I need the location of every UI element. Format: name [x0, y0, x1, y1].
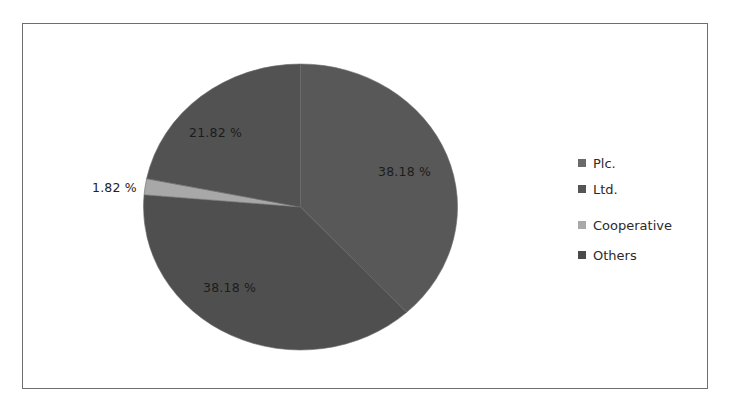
legend-item-others: Others	[578, 246, 637, 264]
slice-label-others: 21.82 %	[189, 125, 242, 140]
legend-label-ltd: Ltd.	[593, 182, 618, 197]
legend-swatch-cooperative	[578, 221, 586, 229]
slice-label-ltd: 38.18 %	[203, 280, 256, 295]
pie-slices	[143, 64, 457, 350]
legend-swatch-plc	[578, 159, 586, 167]
slice-label-cooperative: 1.82 %	[92, 180, 137, 195]
legend-swatch-others	[578, 251, 586, 259]
legend-item-cooperative: Cooperative	[578, 216, 672, 234]
pie-chart	[0, 0, 745, 412]
legend-swatch-ltd	[578, 185, 586, 193]
legend-label-plc: Plc.	[593, 156, 616, 171]
legend-label-cooperative: Cooperative	[593, 218, 672, 233]
legend-item-plc: Plc.	[578, 154, 616, 172]
slice-label-plc: 38.18 %	[378, 164, 431, 179]
legend-item-ltd: Ltd.	[578, 180, 618, 198]
legend-label-others: Others	[593, 248, 637, 263]
